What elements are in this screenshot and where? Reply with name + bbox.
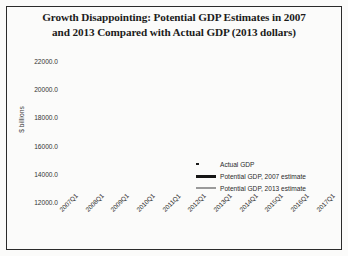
legend-key-dotted-icon xyxy=(196,160,216,169)
chart-title-line-1: Growth Disappointing: Potential GDP Esti… xyxy=(14,10,334,25)
chart-title-line-2: and 2013 Compared with Actual GDP (2013 … xyxy=(14,25,334,40)
legend-key-solid-black-icon xyxy=(196,172,216,181)
y-axis-tick-labels: 22000.0 20000.0 18000.0 16000.0 14000.0 … xyxy=(10,0,58,256)
y-tick-14000: 14000.0 xyxy=(12,171,58,178)
y-tick-12000: 12000.0 xyxy=(12,199,58,206)
legend-key-solid-gray-icon xyxy=(196,184,216,193)
chart-figure: Growth Disappointing: Potential GDP Esti… xyxy=(0,0,348,256)
legend-label-potential-2007: Potential GDP, 2007 estimate xyxy=(220,173,306,180)
y-tick-20000: 20000.0 xyxy=(12,86,58,93)
y-tick-16000: 16000.0 xyxy=(12,143,58,150)
legend-item-actual-gdp: Actual GDP xyxy=(196,158,306,170)
legend-label-actual-gdp: Actual GDP xyxy=(220,161,254,168)
legend-item-potential-2007: Potential GDP, 2007 estimate xyxy=(196,170,306,182)
y-tick-18000: 18000.0 xyxy=(12,114,58,121)
y-tick-22000: 22000.0 xyxy=(12,58,58,65)
chart-title: Growth Disappointing: Potential GDP Esti… xyxy=(14,10,334,40)
legend-item-potential-2013: Potential GDP, 2013 estimate xyxy=(196,182,306,194)
legend-label-potential-2013: Potential GDP, 2013 estimate xyxy=(220,185,306,192)
chart-legend: Actual GDP Potential GDP, 2007 estimate … xyxy=(196,158,306,194)
